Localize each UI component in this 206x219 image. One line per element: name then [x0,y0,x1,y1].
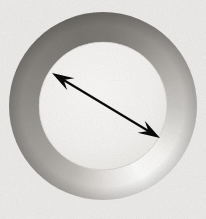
figure-root: Annulus with inner-diameter arrow A grey… [0,0,206,219]
annulus-diagram [0,0,206,219]
ring-inner-hole [39,42,167,170]
